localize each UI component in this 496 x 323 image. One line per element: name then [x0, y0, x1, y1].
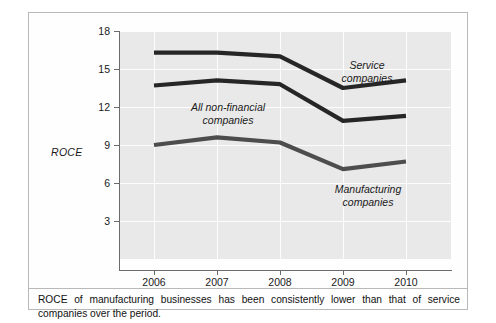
x-tick-mark [217, 270, 218, 275]
y-tick-mark [114, 107, 120, 108]
x-tick-label: 2007 [194, 277, 240, 288]
y-tick-label: 3 [84, 216, 110, 227]
x-tick-mark [343, 270, 344, 275]
series-annotation-line2: companies [169, 114, 287, 127]
series-annotation-line2: companies [321, 72, 413, 85]
series-annotation-line2: companies [315, 196, 421, 209]
x-tick-mark [154, 270, 155, 275]
y-tick-label: 15 [84, 64, 110, 75]
y-axis-title: ROCE [51, 146, 83, 158]
y-tick-mark [114, 221, 120, 222]
line-chart: ROCE 369121518 20062007200820092010 Serv… [29, 13, 467, 271]
series-annotation-line1: All non-financial [169, 101, 287, 114]
x-tick-label: 2008 [257, 277, 303, 288]
x-axis-line [119, 270, 452, 271]
series-annotation-line1: Manufacturing [315, 183, 421, 196]
x-tick-label: 2006 [131, 277, 177, 288]
series-annotation-all-non-financial: All non-financial companies [169, 101, 287, 126]
x-tick-label: 2009 [320, 277, 366, 288]
series-line-manufacturing [154, 137, 406, 169]
y-tick-mark [114, 145, 120, 146]
y-tick-label: 12 [84, 102, 110, 113]
y-tick-label: 6 [84, 178, 110, 189]
figure-caption: ROCE of manufacturing businesses has bee… [38, 293, 460, 320]
y-tick-mark [114, 31, 120, 32]
y-tick-label: 9 [84, 140, 110, 151]
y-tick-label: 18 [84, 26, 110, 37]
caption-divider [29, 288, 467, 289]
y-tick-mark [114, 183, 120, 184]
x-tick-mark [280, 270, 281, 275]
y-axis-line [119, 31, 120, 270]
y-tick-mark [114, 69, 120, 70]
x-tick-label: 2010 [383, 277, 429, 288]
figure-card: ROCE 369121518 20062007200820092010 Serv… [28, 12, 468, 310]
series-annotation-manufacturing: Manufacturing companies [315, 183, 421, 208]
series-annotation-service: Service companies [321, 59, 413, 84]
series-annotation-line1: Service [321, 59, 413, 72]
x-tick-mark [406, 270, 407, 275]
